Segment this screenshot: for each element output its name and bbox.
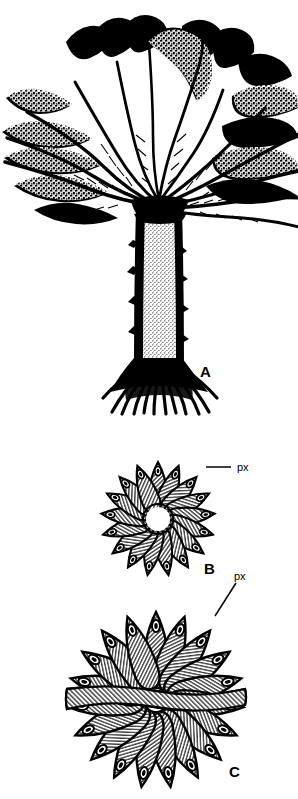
plate-canvas: A xyxy=(0,0,298,799)
figure-label-a: A xyxy=(200,363,211,380)
trunk xyxy=(127,196,189,363)
figure-label-b: B xyxy=(204,560,215,577)
px-label-c: px xyxy=(234,570,246,582)
px-label-b: px xyxy=(237,461,249,473)
figure-label-c: C xyxy=(229,763,240,780)
